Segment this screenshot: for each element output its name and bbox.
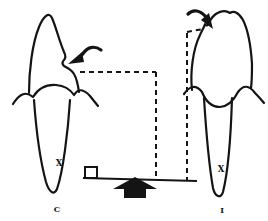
lever-balance — [83, 167, 197, 198]
left-tooth-cervical-line — [13, 85, 98, 106]
right-tooth-crown-outline — [191, 11, 252, 90]
left-tooth-root-outline — [34, 100, 70, 193]
left-force-arrow-head — [68, 52, 84, 64]
right-force-arrow-tail — [188, 11, 206, 17]
right-force-curved-arrow-icon — [188, 11, 213, 29]
diagram-canvas: X C X I — [0, 0, 268, 221]
right-tooth-cervical-line — [184, 87, 264, 107]
right-tooth: X I — [184, 11, 264, 215]
right-tooth-root-outline — [204, 98, 232, 196]
right-tooth-label: I — [220, 205, 224, 215]
tooth-lever-diagram: X C X I — [0, 0, 268, 221]
left-force-curved-arrow-icon — [68, 47, 101, 64]
left-tooth-label: C — [54, 204, 60, 214]
dashed-reference-lines — [80, 29, 203, 180]
weight-open-square-icon — [85, 167, 97, 178]
left-force-arrow-tail — [82, 47, 101, 55]
left-tooth: X C — [13, 15, 101, 214]
left-tooth-crown-outline — [29, 15, 79, 93]
right-tooth-x-mark: X — [218, 164, 225, 174]
left-tooth-x-mark: X — [56, 158, 63, 168]
